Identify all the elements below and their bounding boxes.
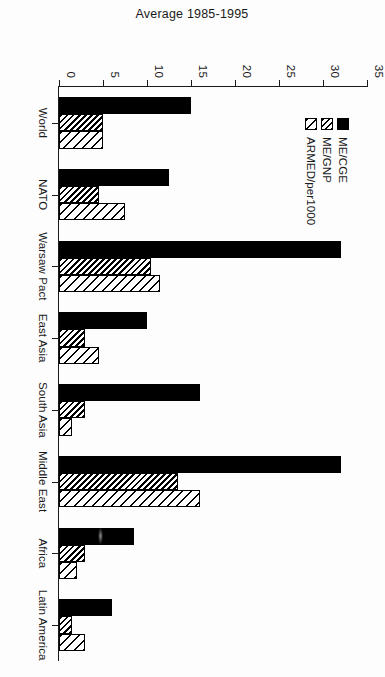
x-axis-tick xyxy=(52,195,59,196)
y-axis-tick xyxy=(367,80,368,87)
y-axis-title: Average 1985-1995 xyxy=(136,7,249,21)
bar[interactable] xyxy=(59,312,147,329)
legend-item[interactable]: ME/GNP xyxy=(321,118,333,225)
y-axis-tick xyxy=(235,80,236,87)
bar[interactable] xyxy=(59,203,125,220)
x-axis-tick xyxy=(52,625,59,626)
bar[interactable] xyxy=(59,490,200,507)
y-axis-tick-label: 0 xyxy=(65,71,77,78)
legend-item[interactable]: ME/CGE xyxy=(337,118,349,225)
rotated-figure-wrapper: Average 1985-1995 05101520253035 WorldNA… xyxy=(0,0,385,677)
y-axis-tick-label: 15 xyxy=(197,65,209,78)
legend-label: ARMED/per1000 xyxy=(305,137,317,225)
bar-group xyxy=(59,312,367,364)
legend-item[interactable]: ARMED/per1000 xyxy=(305,118,317,225)
legend-swatch xyxy=(305,118,317,130)
y-axis-tick xyxy=(103,80,104,87)
x-axis-category-label: World xyxy=(37,108,49,138)
bar[interactable] xyxy=(59,401,85,418)
bar-group xyxy=(59,384,367,436)
y-axis-tick-label: 30 xyxy=(329,65,341,78)
y-axis-tick xyxy=(59,80,60,87)
x-axis-tick xyxy=(52,123,59,124)
y-axis-tick xyxy=(191,80,192,87)
y-axis-tick-label: 10 xyxy=(153,65,165,78)
bar[interactable] xyxy=(59,562,77,579)
x-axis-tick xyxy=(52,266,59,267)
bar[interactable] xyxy=(59,329,85,346)
bar[interactable] xyxy=(59,347,99,364)
x-axis-category-label: Latin America xyxy=(37,590,49,661)
y-axis-tick xyxy=(279,80,280,87)
bar[interactable] xyxy=(59,131,103,148)
x-axis-tick xyxy=(52,482,59,483)
x-axis-category-label: NATO xyxy=(37,179,49,210)
bar[interactable] xyxy=(59,384,200,401)
bar[interactable] xyxy=(59,528,134,545)
x-axis-tick xyxy=(52,410,59,411)
bar[interactable] xyxy=(59,456,341,473)
bar[interactable] xyxy=(59,275,160,292)
bar[interactable] xyxy=(59,545,85,562)
bar[interactable] xyxy=(59,634,85,651)
y-axis-tick xyxy=(323,80,324,87)
legend-swatch xyxy=(321,118,333,130)
legend: ME/CGEME/GNPARMED/per1000 xyxy=(305,118,349,225)
bar-group xyxy=(59,528,367,580)
x-axis-category-label: Africa xyxy=(37,538,49,568)
legend-label: ME/GNP xyxy=(321,137,333,183)
x-axis-category-label: Middle East xyxy=(37,451,49,512)
y-axis-tick-label: 5 xyxy=(109,71,121,78)
x-axis-category-label: Warsaw Pact xyxy=(37,232,49,300)
bar[interactable] xyxy=(59,169,169,186)
legend-label: ME/CGE xyxy=(337,137,349,183)
bar[interactable] xyxy=(59,599,112,616)
legend-swatch xyxy=(337,118,349,130)
bar[interactable] xyxy=(59,97,191,114)
bar-group xyxy=(59,456,367,508)
x-axis-tick xyxy=(52,338,59,339)
y-axis-tick-label: 25 xyxy=(285,65,297,78)
x-axis-category-label: East Asia xyxy=(37,314,49,363)
bar[interactable] xyxy=(59,473,178,490)
y-axis-tick-label: 20 xyxy=(241,65,253,78)
bar[interactable] xyxy=(59,616,72,633)
y-axis-tick-label: 35 xyxy=(373,65,385,78)
bar-group xyxy=(59,599,367,651)
x-axis-tick xyxy=(52,553,59,554)
bar[interactable] xyxy=(59,186,99,203)
bar[interactable] xyxy=(59,418,72,435)
bar[interactable] xyxy=(59,258,151,275)
bar-group xyxy=(59,241,367,293)
bar[interactable] xyxy=(59,114,103,131)
x-axis-category-label: South Asia xyxy=(37,382,49,438)
chart-figure: Average 1985-1995 05101520253035 WorldNA… xyxy=(0,0,385,677)
y-axis-tick xyxy=(147,80,148,87)
bar[interactable] xyxy=(59,241,341,258)
